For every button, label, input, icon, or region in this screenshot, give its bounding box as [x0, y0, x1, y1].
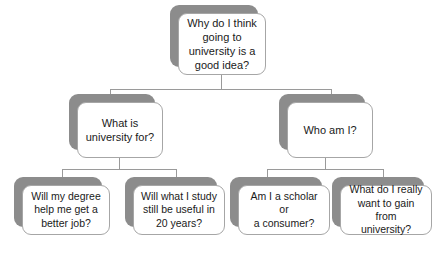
- node-root-card: Why do I think going to university is a …: [178, 13, 266, 75]
- node-branch-right-label: Who am I?: [303, 123, 356, 137]
- node-branch-right-card: Who am I?: [287, 102, 373, 158]
- connector-branch-left-stem: [119, 158, 120, 169]
- node-leaf-4-label: What do I really want to gain from unive…: [347, 183, 425, 237]
- node-leaf-4[interactable]: What do I really want to gain from unive…: [340, 185, 432, 235]
- node-branch-left-label: What is university for?: [86, 116, 154, 144]
- node-branch-left-card: What is university for?: [77, 102, 163, 158]
- connector-level1-bar: [110, 89, 332, 90]
- node-leaf-1-card: Will my degree help me get a better job?: [22, 185, 110, 235]
- node-leaf-2-label: Will what I study still be useful in 20 …: [141, 190, 217, 230]
- node-leaf-4-card: What do I really want to gain from unive…: [340, 185, 432, 235]
- node-leaf-2-card: Will what I study still be useful in 20 …: [133, 185, 225, 235]
- node-root-label: Why do I think going to university is a …: [187, 16, 257, 72]
- node-root[interactable]: Why do I think going to university is a …: [178, 13, 266, 75]
- connector-right-leaves-bar: [267, 169, 383, 170]
- connector-root-stem: [221, 75, 222, 89]
- node-branch-right[interactable]: Who am I?: [287, 102, 373, 158]
- connector-left-leaves-bar: [62, 169, 176, 170]
- node-leaf-1-label: Will my degree help me get a better job?: [31, 190, 100, 230]
- diagram-canvas: Why do I think going to university is a …: [0, 0, 438, 258]
- node-leaf-3-label: Am I a scholar or a consumer?: [245, 190, 323, 230]
- node-leaf-3[interactable]: Am I a scholar or a consumer?: [238, 185, 330, 235]
- node-leaf-1[interactable]: Will my degree help me get a better job?: [22, 185, 110, 235]
- connector-branch-right-stem: [325, 158, 326, 169]
- node-leaf-2[interactable]: Will what I study still be useful in 20 …: [133, 185, 225, 235]
- node-leaf-3-card: Am I a scholar or a consumer?: [238, 185, 330, 235]
- node-branch-left[interactable]: What is university for?: [77, 102, 163, 158]
